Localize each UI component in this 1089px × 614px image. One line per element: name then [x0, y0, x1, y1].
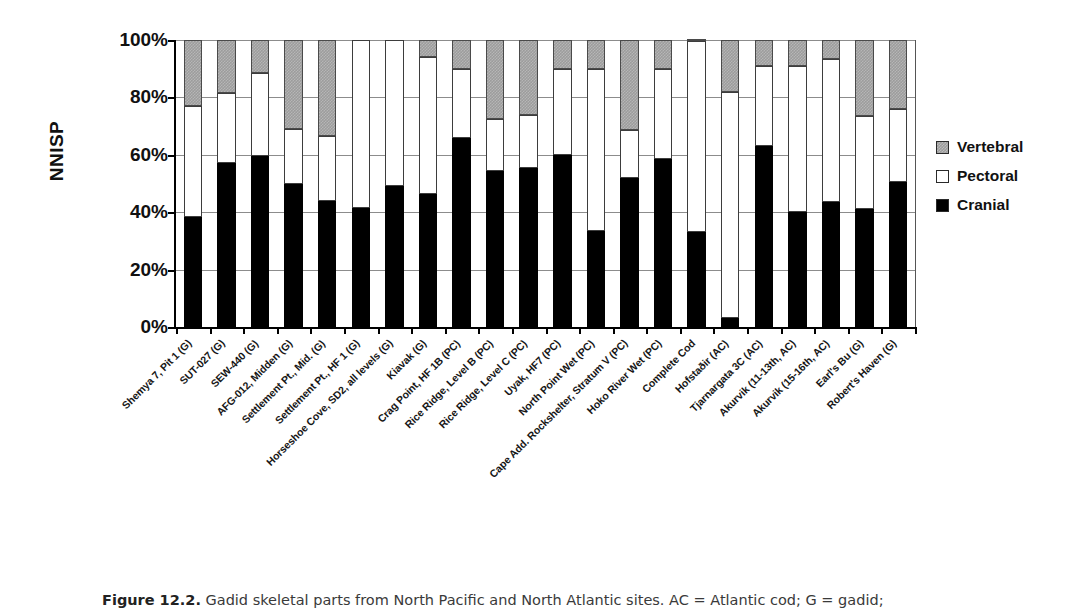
legend-item-pectoral[interactable]: Pectoral	[936, 167, 1086, 185]
bar-segment-cranial[interactable]	[889, 182, 907, 327]
bar-slot[interactable]	[176, 40, 210, 327]
stacked-bar[interactable]	[654, 40, 672, 327]
bar-segment-pectoral[interactable]	[251, 73, 269, 156]
bar-segment-vertebral[interactable]	[452, 40, 470, 69]
stacked-bar[interactable]	[822, 40, 840, 327]
bar-segment-vertebral[interactable]	[687, 39, 705, 41]
stacked-bar[interactable]	[519, 40, 537, 327]
bar-segment-vertebral[interactable]	[620, 40, 638, 130]
bar-segment-cranial[interactable]	[251, 156, 269, 327]
stacked-bar[interactable]	[352, 40, 370, 327]
bar-slot[interactable]	[445, 40, 479, 327]
bar-segment-vertebral[interactable]	[419, 40, 437, 57]
bar-segment-pectoral[interactable]	[755, 66, 773, 146]
stacked-bar[interactable]	[788, 40, 806, 327]
bar-slot[interactable]	[546, 40, 580, 327]
bar-slot[interactable]	[378, 40, 412, 327]
bar-segment-vertebral[interactable]	[654, 40, 672, 69]
bar-slot[interactable]	[344, 40, 378, 327]
bar-segment-cranial[interactable]	[385, 186, 403, 327]
bar-slot[interactable]	[848, 40, 882, 327]
bar-segment-vertebral[interactable]	[587, 40, 605, 69]
bar-slot[interactable]	[646, 40, 680, 327]
stacked-bar[interactable]	[385, 40, 403, 327]
bar-segment-pectoral[interactable]	[217, 93, 235, 163]
bar-segment-vertebral[interactable]	[486, 40, 504, 119]
stacked-bar[interactable]	[318, 40, 336, 327]
bar-segment-cranial[interactable]	[721, 318, 739, 327]
stacked-bar[interactable]	[284, 40, 302, 327]
bar-segment-cranial[interactable]	[352, 208, 370, 327]
bar-segment-pectoral[interactable]	[184, 106, 202, 216]
bar-segment-vertebral[interactable]	[519, 40, 537, 115]
bar-slot[interactable]	[814, 40, 848, 327]
bar-segment-cranial[interactable]	[855, 209, 873, 327]
bar-slot[interactable]	[310, 40, 344, 327]
bar-segment-vertebral[interactable]	[889, 40, 907, 109]
bar-slot[interactable]	[478, 40, 512, 327]
bar-slot[interactable]	[713, 40, 747, 327]
bar-segment-vertebral[interactable]	[184, 40, 202, 106]
bar-segment-pectoral[interactable]	[889, 109, 907, 182]
bar-segment-cranial[interactable]	[654, 159, 672, 327]
bar-segment-pectoral[interactable]	[654, 69, 672, 159]
bar-segment-cranial[interactable]	[184, 217, 202, 327]
bar-segment-vertebral[interactable]	[553, 40, 571, 69]
bar-segment-pectoral[interactable]	[419, 57, 437, 193]
bar-segment-pectoral[interactable]	[486, 119, 504, 171]
bar-slot[interactable]	[210, 40, 244, 327]
stacked-bar[interactable]	[184, 40, 202, 327]
bar-segment-pectoral[interactable]	[385, 40, 403, 186]
bar-slot[interactable]	[881, 40, 915, 327]
bar-slot[interactable]	[277, 40, 311, 327]
bar-slot[interactable]	[579, 40, 613, 327]
stacked-bar[interactable]	[452, 40, 470, 327]
bar-segment-vertebral[interactable]	[788, 40, 806, 66]
bar-segment-pectoral[interactable]	[587, 69, 605, 231]
stacked-bar[interactable]	[889, 40, 907, 327]
bar-segment-pectoral[interactable]	[721, 92, 739, 319]
stacked-bar[interactable]	[587, 40, 605, 327]
bar-slot[interactable]	[411, 40, 445, 327]
bar-segment-cranial[interactable]	[587, 231, 605, 327]
bar-segment-pectoral[interactable]	[855, 116, 873, 209]
bar-segment-pectoral[interactable]	[553, 69, 571, 155]
stacked-bar[interactable]	[855, 40, 873, 327]
bar-segment-pectoral[interactable]	[352, 40, 370, 208]
bar-segment-vertebral[interactable]	[251, 40, 269, 73]
bar-segment-pectoral[interactable]	[452, 69, 470, 138]
stacked-bar[interactable]	[620, 40, 638, 327]
bar-segment-cranial[interactable]	[452, 138, 470, 327]
bar-segment-vertebral[interactable]	[855, 40, 873, 116]
bar-segment-cranial[interactable]	[788, 212, 806, 327]
bar-segment-vertebral[interactable]	[721, 40, 739, 92]
bar-segment-cranial[interactable]	[318, 201, 336, 327]
stacked-bar[interactable]	[251, 40, 269, 327]
bar-segment-pectoral[interactable]	[519, 115, 537, 168]
bar-slot[interactable]	[512, 40, 546, 327]
bar-segment-cranial[interactable]	[822, 202, 840, 327]
bar-segment-cranial[interactable]	[519, 168, 537, 327]
stacked-bar[interactable]	[755, 40, 773, 327]
stacked-bar[interactable]	[553, 40, 571, 327]
bar-segment-vertebral[interactable]	[755, 40, 773, 66]
bar-segment-pectoral[interactable]	[620, 130, 638, 177]
bar-segment-cranial[interactable]	[553, 155, 571, 327]
bar-segment-cranial[interactable]	[687, 232, 705, 327]
bar-slot[interactable]	[747, 40, 781, 327]
bar-segment-vertebral[interactable]	[822, 40, 840, 59]
stacked-bar[interactable]	[486, 40, 504, 327]
bar-segment-cranial[interactable]	[620, 178, 638, 327]
bar-segment-vertebral[interactable]	[318, 40, 336, 136]
stacked-bar[interactable]	[721, 40, 739, 327]
bar-slot[interactable]	[243, 40, 277, 327]
stacked-bar[interactable]	[687, 40, 705, 327]
bar-slot[interactable]	[613, 40, 647, 327]
bar-segment-pectoral[interactable]	[788, 66, 806, 212]
bar-slot[interactable]	[781, 40, 815, 327]
bar-segment-pectoral[interactable]	[687, 41, 705, 232]
bar-segment-cranial[interactable]	[755, 146, 773, 327]
bar-segment-vertebral[interactable]	[284, 40, 302, 129]
bar-segment-pectoral[interactable]	[284, 129, 302, 184]
stacked-bar[interactable]	[217, 40, 235, 327]
